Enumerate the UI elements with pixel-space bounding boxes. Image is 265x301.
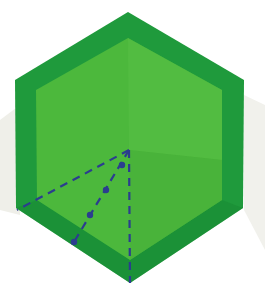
fold-dot — [71, 239, 77, 245]
fold-dot — [119, 162, 125, 168]
fold-dot — [87, 212, 93, 218]
paper-shadow-right — [244, 95, 265, 250]
hexagon-figure — [0, 0, 265, 301]
folded-hexagon-diagram — [0, 0, 265, 301]
fold-dot — [103, 187, 109, 193]
